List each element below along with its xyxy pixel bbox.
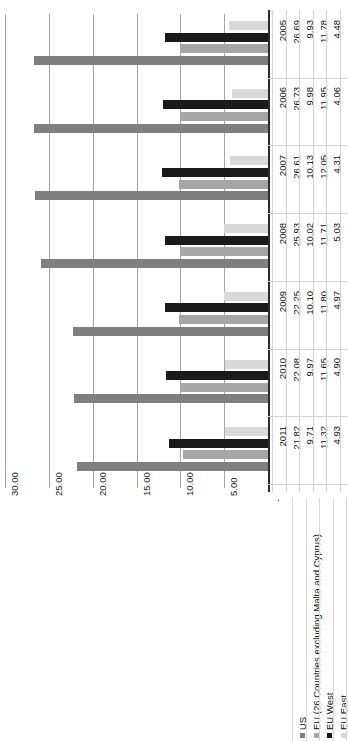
legend-separator [346,498,347,741]
gridline-20-00 [93,14,94,488]
table-row-separator [268,78,348,79]
table-row-separator [268,145,348,146]
legend-swatch-icon [300,733,305,738]
gridline-25-00 [49,14,50,488]
axis-tick-label: 30.00 [9,472,20,496]
bar-2006 [163,100,268,109]
table-row-separator [268,484,348,485]
table-col-separator [299,10,300,492]
axis-tick-label: 5.00 [228,478,239,497]
legend-separator [292,498,293,741]
bar-2006 [181,112,268,121]
bar-2010 [181,383,268,392]
table-col-separator [313,10,314,492]
bar-2009 [73,327,268,336]
bar-2005 [165,33,268,42]
bar-2005 [34,56,268,65]
bar-2008 [180,247,268,256]
bar-2011 [183,450,268,459]
axis-tick-label: - [272,499,283,502]
axis-tick-label: 20.00 [97,472,108,496]
bar-2009 [165,303,268,312]
bar-2007 [179,180,268,189]
table-col-separator [286,10,287,492]
legend-separator [306,498,307,741]
axis-tick-label: 10.00 [184,472,195,496]
bar-2007 [35,191,268,200]
table-row-separator [268,416,348,417]
bar-2011 [169,439,268,448]
gridline-30-00 [5,14,6,488]
bar-2010 [74,394,268,403]
bar-2008 [224,224,268,233]
bar-2007 [230,156,268,165]
bar-2007 [162,168,268,177]
table-row-separator [268,213,348,214]
table-col-separator [272,10,273,492]
legend-swatch-icon [327,733,332,738]
bar-2011 [225,427,268,436]
bar-2005 [181,44,268,53]
chart-container: -5.0010.0015.0020.0025.0030.00 200526.69… [0,0,348,741]
data-table: 200526.699.9311.784.48200626.739.9811.95… [268,10,348,492]
table-row-separator [268,349,348,350]
chart-legend: USEU (26 Countries excluding Malta and C… [292,498,348,741]
bar-2009 [179,315,268,324]
bar-2009 [224,292,268,301]
bar-2005 [229,21,268,30]
bar-2006 [232,89,268,98]
gridline-15-00 [137,14,138,488]
table-col-separator [340,10,341,492]
legend-swatch-icon [313,733,318,738]
bar-2008 [165,236,268,245]
bar-2010 [225,360,268,369]
table-row-separator [268,281,348,282]
bar-2006 [34,124,268,133]
legend-swatch-icon [340,733,345,738]
table-col-separator [326,10,327,492]
bar-2011 [77,462,268,471]
legend-separator [333,498,334,741]
bar-2008 [41,259,268,268]
bar-2010 [166,371,268,380]
axis-tick-label: 15.00 [141,472,152,496]
legend-separator [319,498,320,741]
axis-tick-label: 25.00 [53,472,64,496]
